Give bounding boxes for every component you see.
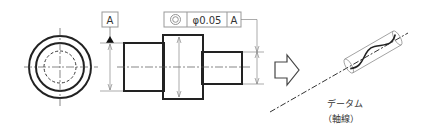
- right-diameter-dimension: [243, 46, 264, 84]
- fcf-tolerance: φ0.05: [193, 15, 222, 26]
- technical-drawing: A φ0.05 A: [0, 0, 431, 134]
- shaft-section-right: [202, 52, 242, 84]
- datum-triangle-icon: [106, 36, 114, 43]
- fcf-leader: [241, 20, 257, 53]
- fcf-datum-ref: A: [231, 15, 238, 26]
- right-arrow-icon: [275, 55, 299, 85]
- end-view: [24, 28, 98, 106]
- datum-feature-symbol: A: [102, 12, 118, 43]
- shaft-section-left: [124, 43, 164, 91]
- datum-caption: データム: [327, 98, 363, 109]
- datum-caption-sub: （軸線）: [323, 113, 359, 124]
- datum-label: A: [107, 15, 114, 26]
- actual-axis-curve: [346, 34, 399, 70]
- tolerance-cylinder: [342, 30, 404, 75]
- feature-control-frame: φ0.05 A: [164, 12, 257, 52]
- shaft-side-view: [117, 35, 250, 99]
